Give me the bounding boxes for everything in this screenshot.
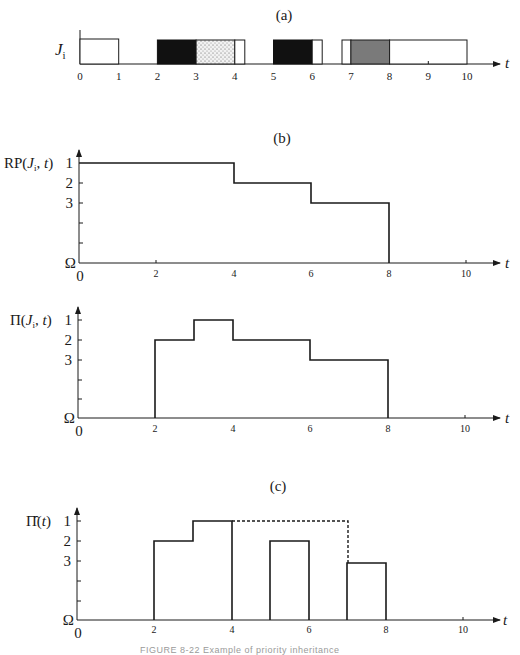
c-x-axis-label: t — [503, 612, 508, 628]
svg-text:4: 4 — [232, 70, 238, 82]
svg-text:Ω: Ω — [65, 255, 76, 271]
b1-x-axis-label: t — [505, 255, 510, 271]
b2-x-tick-labels: 0 2 4 6 8 10 — [75, 423, 470, 439]
panel-a-label: (a) — [276, 7, 293, 24]
svg-text:9: 9 — [426, 70, 432, 82]
svg-text:8: 8 — [384, 624, 389, 635]
svg-text:2: 2 — [155, 70, 161, 82]
svg-text:2: 2 — [152, 624, 157, 635]
b2-y-levels: 1 2 3 Ω — [64, 312, 75, 426]
panel-b-label: (b) — [273, 130, 291, 147]
svg-text:5: 5 — [271, 70, 277, 82]
pihat-block-1 — [154, 521, 232, 620]
panel-c-label: (c) — [270, 478, 287, 495]
a-x-axis-label: t — [505, 55, 510, 71]
svg-text:6: 6 — [309, 70, 315, 82]
pi-step-line — [155, 320, 388, 418]
c-ylabel: Π̂(t) — [26, 513, 51, 530]
figure-caption: FIGURE 8-22 Example of priority inherita… — [140, 645, 340, 655]
c-y-levels: 1 2 3 Ω — [63, 513, 74, 628]
job-segment-5-6-black — [274, 40, 313, 64]
svg-text:0: 0 — [77, 70, 83, 82]
job-segment-8-10-white — [390, 40, 467, 64]
svg-text:8: 8 — [386, 423, 391, 434]
svg-text:Ω: Ω — [63, 612, 74, 628]
b2-ylabel: Π(Ji, t) — [10, 312, 52, 330]
job-segment-7-8-gray — [351, 40, 390, 64]
pihat-dotted-line — [232, 521, 348, 563]
panel-c: (c) Π̂(t) 1 2 3 Ω 0 2 4 6 8 10 t — [26, 478, 508, 641]
panel-a: (a) Ji t 0 1 2 3 4 5 6 7 8 9 10 — [55, 7, 510, 82]
svg-text:10: 10 — [462, 70, 474, 82]
b1-y-levels: 1 2 3 Ω — [65, 155, 76, 271]
job-segment-3-4-dotted — [196, 40, 235, 64]
job-segment-4-white — [235, 40, 245, 64]
svg-text:4: 4 — [230, 624, 235, 635]
svg-text:1: 1 — [64, 513, 72, 529]
b1-x-tick-labels: 0 2 4 6 8 10 — [76, 268, 471, 284]
svg-text:2: 2 — [65, 332, 73, 348]
svg-text:0: 0 — [74, 625, 82, 641]
pihat-block-2 — [270, 541, 309, 620]
svg-text:Ω: Ω — [64, 410, 75, 426]
c-x-tick-labels: 0 2 4 6 8 10 — [74, 624, 468, 641]
rp-step-line — [79, 163, 389, 263]
svg-text:8: 8 — [387, 268, 392, 279]
svg-text:8: 8 — [387, 70, 393, 82]
job-segment-2-3-black — [157, 40, 196, 64]
svg-text:3: 3 — [64, 553, 72, 569]
job-segment-6-white — [312, 40, 322, 64]
svg-text:6: 6 — [308, 423, 313, 434]
svg-text:2: 2 — [64, 533, 72, 549]
svg-text:10: 10 — [461, 268, 471, 279]
svg-text:1: 1 — [66, 155, 74, 171]
svg-text:0: 0 — [76, 268, 84, 284]
a-x-tick-labels: 0 1 2 3 4 5 6 7 8 9 10 — [77, 70, 473, 82]
svg-text:0: 0 — [75, 423, 83, 439]
svg-text:3: 3 — [66, 195, 74, 211]
b1-ylabel: RP(Ji, t) — [4, 155, 53, 173]
svg-text:7: 7 — [348, 70, 354, 82]
panel-b-rp: (b) RP(Ji, t) 1 2 3 Ω 0 2 4 6 8 10 t — [4, 130, 510, 284]
job-segment-6_75-7-white — [342, 40, 351, 64]
svg-text:2: 2 — [154, 268, 159, 279]
job-segment-0-1 — [80, 39, 119, 64]
b2-x-axis-label: t — [505, 410, 510, 426]
svg-text:10: 10 — [458, 624, 468, 635]
a-ylabel: Ji — [55, 40, 66, 61]
panel-b-pi: Π(Ji, t) 1 2 3 Ω 0 2 4 6 8 10 t — [10, 307, 510, 439]
svg-text:6: 6 — [309, 268, 314, 279]
svg-text:2: 2 — [153, 423, 158, 434]
svg-text:3: 3 — [65, 352, 73, 368]
svg-text:3: 3 — [193, 70, 199, 82]
svg-text:6: 6 — [307, 624, 312, 635]
svg-text:10: 10 — [460, 423, 470, 434]
svg-text:4: 4 — [232, 268, 237, 279]
svg-text:2: 2 — [66, 175, 74, 191]
svg-text:4: 4 — [231, 423, 236, 434]
svg-text:1: 1 — [116, 70, 122, 82]
svg-text:1: 1 — [65, 312, 73, 328]
pihat-block-3 — [347, 563, 386, 620]
